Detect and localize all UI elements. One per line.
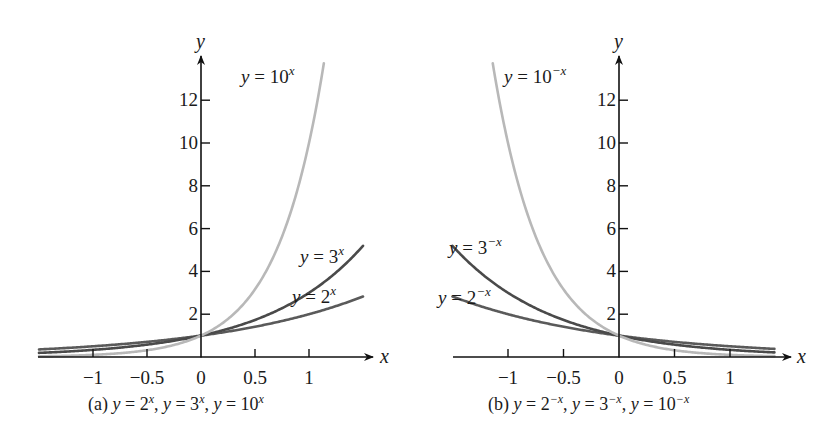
y-tick-label: 2 bbox=[189, 303, 199, 324]
x-tick-label: 1 bbox=[304, 367, 314, 388]
y-axis-label: y bbox=[612, 30, 623, 53]
curve-labels: y = 2−xy = 3−xy = 10−x bbox=[436, 63, 566, 308]
y-tick-label: 6 bbox=[189, 218, 199, 239]
x-axis-label: x bbox=[379, 345, 389, 367]
curve-label-2: y = 2x bbox=[290, 283, 336, 307]
x-tick-label: −1 bbox=[498, 367, 518, 388]
x-tick-label: 0 bbox=[614, 367, 624, 388]
figure-caption-b: (b) y = 2−x, y = 3−x, y = 10−x bbox=[488, 392, 690, 415]
y-tick-label: 10 bbox=[179, 132, 198, 153]
curve-label-2: y = 2−x bbox=[436, 284, 491, 308]
x-axis-label: x bbox=[796, 345, 806, 367]
curve-labels: y = 2xy = 3xy = 10x bbox=[239, 63, 344, 307]
y-tick-label: 10 bbox=[597, 132, 616, 153]
y-tick-label: 12 bbox=[179, 89, 198, 110]
y-tick-label: 8 bbox=[189, 175, 199, 196]
curve-10-neg-x bbox=[493, 63, 775, 356]
y-tick-label: 8 bbox=[607, 175, 617, 196]
x-tick-label: 0.5 bbox=[663, 367, 687, 388]
chart-panel-a: −1−0.500.5124681012xyy = 2xy = 3xy = 10x… bbox=[38, 30, 389, 415]
curve-label-10: y = 10x bbox=[239, 63, 295, 87]
x-tick-label: −0.5 bbox=[130, 367, 164, 388]
curve-label-3: y = 3−x bbox=[447, 234, 502, 258]
x-tick-label: 0.5 bbox=[243, 367, 267, 388]
figure-caption-a: (a) y = 2x, y = 3x, y = 10x bbox=[88, 392, 265, 415]
y-tick-label: 12 bbox=[597, 89, 616, 110]
y-tick-label: 4 bbox=[607, 260, 617, 281]
x-tick-label: −1 bbox=[83, 367, 103, 388]
curve-label-3: y = 3x bbox=[298, 243, 344, 267]
figure-exponential-functions: −1−0.500.5124681012xyy = 2xy = 3xy = 10x… bbox=[0, 0, 827, 438]
x-tick-label: −0.5 bbox=[546, 367, 580, 388]
chart-panel-b: −1−0.500.5124681012xyy = 2−xy = 3−xy = 1… bbox=[436, 30, 806, 415]
figure-canvas: −1−0.500.5124681012xyy = 2xy = 3xy = 10x… bbox=[0, 0, 827, 438]
y-tick-label: 2 bbox=[607, 303, 617, 324]
y-axis-label: y bbox=[194, 30, 205, 53]
curve-label-10: y = 10−x bbox=[502, 63, 566, 87]
x-tick-label: 0 bbox=[196, 367, 206, 388]
y-tick-label: 4 bbox=[189, 260, 199, 281]
y-tick-label: 6 bbox=[607, 218, 617, 239]
x-tick-label: 1 bbox=[725, 367, 735, 388]
